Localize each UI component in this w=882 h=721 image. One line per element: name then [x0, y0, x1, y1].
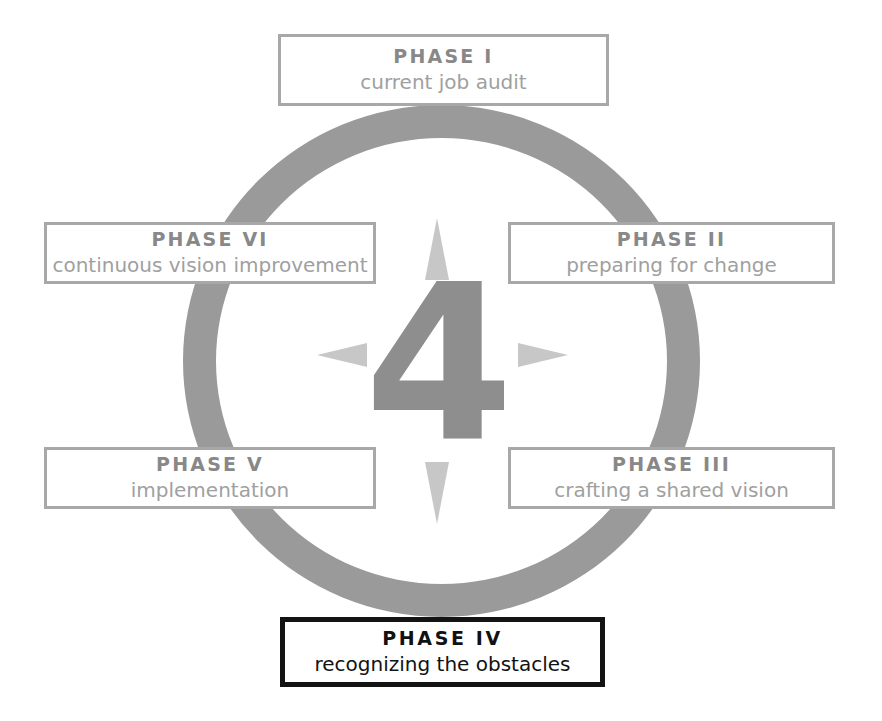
cycle-ring [183, 105, 700, 617]
phase-3-title: PHASE III [612, 454, 731, 476]
phase-3-subtitle: crafting a shared vision [554, 478, 789, 502]
phase-1-title: PHASE I [393, 46, 493, 68]
phase-4-subtitle: recognizing the obstacles [315, 652, 571, 676]
phase-6-title: PHASE VI [151, 229, 268, 251]
phase-5-title: PHASE V [156, 454, 264, 476]
phase-6-subtitle: continuous vision improvement [52, 253, 367, 277]
phase-2-subtitle: preparing for change [566, 253, 777, 277]
phase-5-subtitle: implementation [131, 478, 289, 502]
phase-box-3[interactable]: PHASE III crafting a shared vision [508, 447, 835, 509]
arrow-up-icon [425, 218, 449, 280]
phase-box-4-highlighted[interactable]: PHASE IV recognizing the obstacles [280, 617, 605, 687]
phase-1-subtitle: current job audit [360, 70, 526, 94]
phase-box-5[interactable]: PHASE V implementation [44, 447, 376, 509]
phase-2-title: PHASE II [617, 229, 727, 251]
phase-box-1[interactable]: PHASE I current job audit [278, 34, 609, 106]
arrow-left-icon [317, 343, 367, 367]
phase-box-2[interactable]: PHASE II preparing for change [508, 222, 835, 284]
phase-cycle-diagram: 4 PHASE I current job audit PHASE VI con… [0, 0, 882, 721]
phase-4-title: PHASE IV [382, 628, 502, 650]
arrow-down-icon [425, 462, 449, 524]
arrow-right-icon [518, 343, 568, 367]
phase-box-6[interactable]: PHASE VI continuous vision improvement [44, 222, 376, 284]
